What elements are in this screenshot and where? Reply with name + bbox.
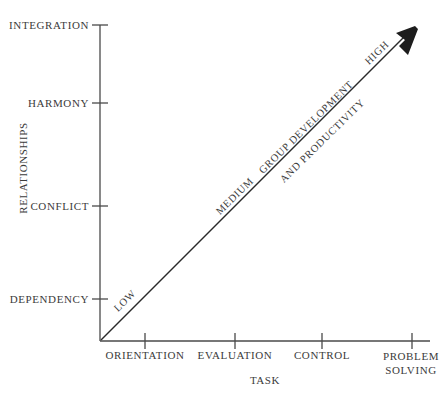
y-tick-label-harmony: HARMONY bbox=[28, 98, 89, 109]
x-tick-label-problem-solving: PROBLEM SOLVING bbox=[383, 350, 439, 378]
y-tick-label-dependency: DEPENDENCY bbox=[10, 294, 89, 305]
x-axis-title: TASK bbox=[250, 375, 280, 386]
y-axis-title: RELATIONSHIPS bbox=[18, 122, 29, 214]
y-tick-label-conflict: CONFLICT bbox=[30, 201, 89, 212]
x-tick-label-control: CONTROL bbox=[294, 350, 350, 361]
y-tick-label-integration: INTEGRATION bbox=[9, 20, 89, 31]
x-tick-label-problem-solving-line1: PROBLEM bbox=[383, 350, 439, 364]
x-tick-label-evaluation: EVALUATION bbox=[198, 350, 273, 361]
growth-arrow-head bbox=[396, 26, 418, 55]
diagram-canvas: INTEGRATION HARMONY CONFLICT DEPENDENCY … bbox=[0, 0, 447, 399]
growth-arrow bbox=[101, 26, 418, 340]
growth-arrow-shaft bbox=[101, 37, 404, 340]
x-tick-label-problem-solving-line2: SOLVING bbox=[383, 364, 439, 378]
x-tick-label-orientation: ORIENTATION bbox=[105, 350, 184, 361]
